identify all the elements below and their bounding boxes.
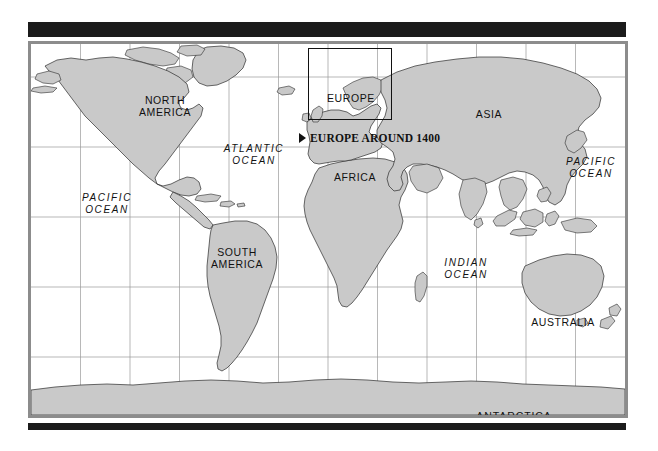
top-decorative-rule	[28, 22, 626, 37]
world-map-page: .land { fill:#c9c9c9; stroke:#2b2b2b; st…	[0, 0, 658, 451]
world-map-graphic: .land { fill:#c9c9c9; stroke:#2b2b2b; st…	[31, 44, 625, 415]
island-puerto-rico	[237, 203, 245, 207]
bottom-decorative-rule	[28, 423, 626, 430]
landmass-antarctica	[31, 379, 625, 415]
map-plate: .land { fill:#c9c9c9; stroke:#2b2b2b; st…	[31, 44, 625, 415]
map-frame: .land { fill:#c9c9c9; stroke:#2b2b2b; st…	[28, 41, 628, 418]
